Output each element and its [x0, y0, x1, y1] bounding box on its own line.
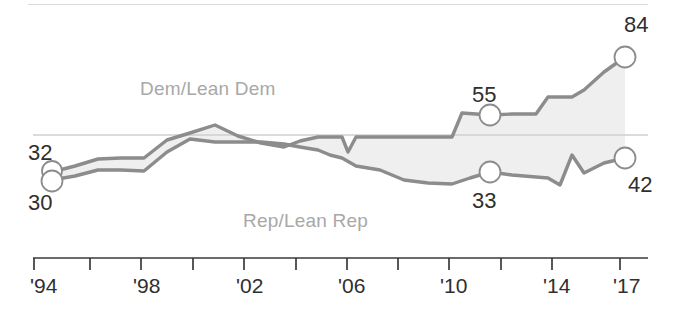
value-label-dem-mid: 55: [472, 82, 496, 108]
xtick-label-2017: '17: [613, 274, 640, 298]
xtick-label-1998: '98: [133, 274, 160, 298]
value-label-dem-start: 32: [28, 140, 52, 166]
value-label-dem-end: 84: [624, 12, 648, 38]
xtick-label-2006: '06: [338, 274, 365, 298]
marker-rep-2017: [615, 148, 636, 169]
xtick-label-2002: '02: [236, 274, 263, 298]
marker-dem-2017: [615, 47, 636, 68]
line-chart-plot: [0, 0, 678, 321]
xtick-label-1994: '94: [30, 274, 57, 298]
marker-rep-1994: [42, 171, 63, 192]
value-label-rep-end: 42: [628, 172, 652, 198]
marker-rep-2012: [480, 162, 501, 183]
xtick-label-2010: '10: [440, 274, 467, 298]
x-axis-ticks: [34, 258, 620, 270]
series-label-rep: Rep/Lean Rep: [243, 210, 368, 232]
between-series-fill: [52, 57, 625, 185]
series-label-dem: Dem/Lean Dem: [140, 78, 275, 100]
chart-figure: Dem/Lean Dem Rep/Lean Rep 84 55 32 42 33…: [0, 0, 678, 321]
xtick-label-2014: '14: [543, 274, 570, 298]
value-label-rep-start: 30: [28, 190, 52, 216]
value-label-rep-mid: 33: [472, 188, 496, 214]
